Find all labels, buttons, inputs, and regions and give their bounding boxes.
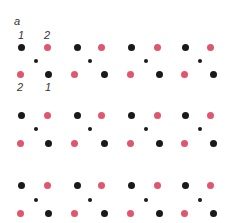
pink-atom-dot bbox=[71, 140, 78, 147]
pink-atom-dot bbox=[71, 71, 78, 78]
small-atom-dot bbox=[88, 59, 92, 63]
black-atom-dot bbox=[74, 44, 81, 51]
pink-atom-dot bbox=[127, 210, 134, 217]
small-atom-dot bbox=[88, 198, 92, 202]
panel-label: a bbox=[14, 16, 20, 27]
pink-atom-dot bbox=[181, 71, 188, 78]
pink-atom-dot bbox=[17, 210, 24, 217]
pink-atom-dot bbox=[44, 112, 51, 119]
pink-atom-dot bbox=[181, 210, 188, 217]
black-atom-dot bbox=[18, 112, 25, 119]
black-atom-dot bbox=[128, 182, 135, 189]
site-label-top-1: 1 bbox=[18, 30, 24, 41]
pink-atom-dot bbox=[181, 140, 188, 147]
black-atom-dot bbox=[210, 210, 217, 217]
pink-atom-dot bbox=[127, 140, 134, 147]
site-label-bottom-2: 2 bbox=[17, 82, 23, 93]
pink-atom-dot bbox=[17, 140, 24, 147]
black-atom-dot bbox=[18, 44, 25, 51]
lattice-diagram bbox=[0, 0, 238, 223]
black-atom-dot bbox=[156, 140, 163, 147]
black-atom-dot bbox=[182, 44, 189, 51]
black-atom-dot bbox=[101, 71, 108, 78]
black-atom-dot bbox=[210, 71, 217, 78]
small-atom-dot bbox=[34, 198, 38, 202]
small-atom-dot bbox=[144, 59, 148, 63]
pink-atom-dot bbox=[44, 44, 51, 51]
pink-atom-dot bbox=[17, 71, 24, 78]
small-atom-dot bbox=[34, 59, 38, 63]
black-atom-dot bbox=[101, 140, 108, 147]
black-atom-dot bbox=[101, 210, 108, 217]
black-atom-dot bbox=[45, 140, 52, 147]
pink-atom-dot bbox=[207, 44, 214, 51]
black-atom-dot bbox=[18, 182, 25, 189]
pink-atom-dot bbox=[154, 112, 161, 119]
site-label-bottom-1: 1 bbox=[45, 82, 51, 93]
black-atom-dot bbox=[45, 210, 52, 217]
pink-atom-dot bbox=[98, 112, 105, 119]
pink-atom-dot bbox=[98, 44, 105, 51]
black-atom-dot bbox=[74, 182, 81, 189]
small-atom-dot bbox=[144, 127, 148, 131]
small-atom-dot bbox=[198, 59, 202, 63]
black-atom-dot bbox=[182, 112, 189, 119]
pink-atom-dot bbox=[207, 112, 214, 119]
pink-atom-dot bbox=[71, 210, 78, 217]
small-atom-dot bbox=[198, 198, 202, 202]
black-atom-dot bbox=[45, 71, 52, 78]
pink-atom-dot bbox=[154, 182, 161, 189]
pink-atom-dot bbox=[98, 182, 105, 189]
pink-atom-dot bbox=[44, 182, 51, 189]
black-atom-dot bbox=[128, 44, 135, 51]
site-label-top-2: 2 bbox=[44, 30, 50, 41]
small-atom-dot bbox=[198, 127, 202, 131]
pink-atom-dot bbox=[127, 71, 134, 78]
black-atom-dot bbox=[156, 71, 163, 78]
small-atom-dot bbox=[144, 198, 148, 202]
black-atom-dot bbox=[74, 112, 81, 119]
pink-atom-dot bbox=[154, 44, 161, 51]
black-atom-dot bbox=[156, 210, 163, 217]
black-atom-dot bbox=[210, 140, 217, 147]
black-atom-dot bbox=[128, 112, 135, 119]
small-atom-dot bbox=[88, 127, 92, 131]
small-atom-dot bbox=[34, 127, 38, 131]
black-atom-dot bbox=[182, 182, 189, 189]
pink-atom-dot bbox=[207, 182, 214, 189]
